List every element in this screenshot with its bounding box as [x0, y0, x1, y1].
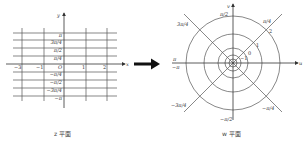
z-y-tick: π	[58, 32, 63, 38]
w-ray-label-top-right: π/4	[262, 18, 271, 24]
w-ray-label-bottom-right: −π/4	[262, 105, 274, 111]
w-u-axis-label: u	[299, 60, 302, 66]
z-x-tick: 1	[82, 64, 85, 70]
z-y-tick: −3π/4	[46, 87, 62, 93]
z-x-tick: 2	[103, 64, 106, 70]
z-y-tick: −π	[55, 95, 63, 101]
w-ray-label-bottom-left: −3π/4	[171, 102, 187, 108]
w-ray-label-top-left: 3π/4	[177, 21, 188, 27]
w-ray-label-neg-pi: −π	[172, 64, 180, 70]
z-x-axis-label: x	[126, 61, 129, 67]
w-circle-label: −1	[240, 55, 247, 61]
z-y-axis-label: y	[56, 12, 60, 19]
z-x-tick: −1	[36, 64, 43, 70]
w-ray-label-bottom: −π/2	[220, 116, 232, 122]
z-y-tick: π/4	[53, 55, 62, 61]
w-ray-label-top: π/2	[219, 11, 228, 17]
w-plane-caption: w 平面	[222, 130, 241, 138]
z-horizontal-lines	[13, 33, 117, 96]
w-v-axis-label: v	[227, 3, 230, 9]
z-y-tick: π/2	[53, 47, 62, 53]
exp-mapping-diagram: x y O −3 −1 1 2 π 3π/4 π/2 π/4 −π/4 −π/2…	[0, 0, 305, 144]
z-plane: x y O −3 −1 1 2 π 3π/4 π/2 π/4 −π/4 −π/2…	[6, 12, 129, 138]
w-plane: u v π/2 π/4 3π/4 π −π −3π/4 −π/2 −π/4 2 …	[171, 3, 302, 138]
z-y-tick: 3π/4	[51, 39, 62, 45]
z-x-tick: −3	[14, 64, 21, 70]
z-y-tick: −π/4	[50, 71, 62, 77]
w-circle-label: 0	[248, 50, 251, 56]
w-circle-label: 1	[256, 42, 259, 48]
w-circle-label: 2	[269, 28, 272, 34]
z-y-tick: −π/2	[50, 79, 62, 85]
z-vertical-lines	[22, 28, 107, 101]
w-ray-label-pi: π	[172, 56, 177, 62]
z-plane-caption: z 平面	[54, 130, 71, 138]
mapping-arrow	[134, 59, 160, 70]
z-origin-label: O	[58, 64, 62, 70]
